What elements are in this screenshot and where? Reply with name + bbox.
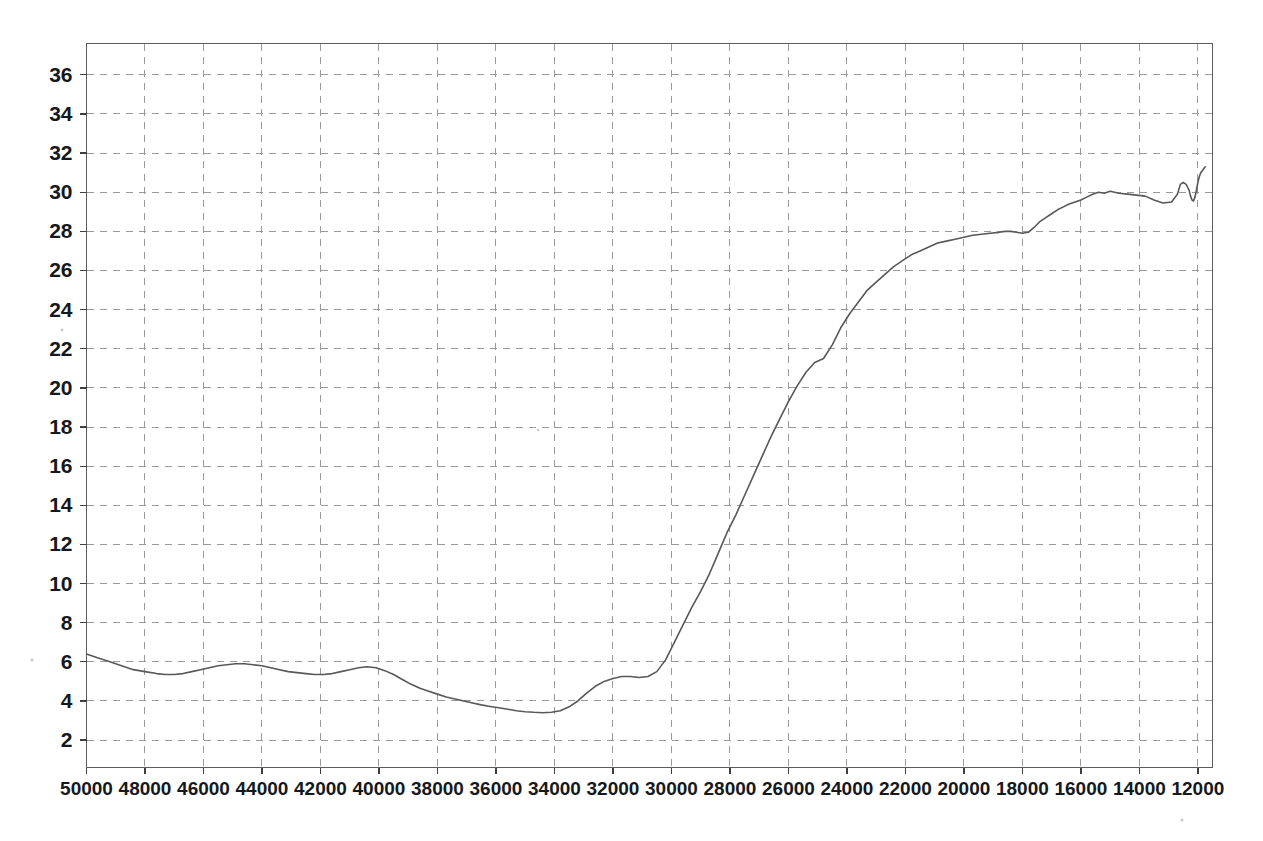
x-axis-ticks: 5000048000460004400042000400003800036000…: [60, 768, 1224, 799]
x-tick-label: 46000: [177, 778, 230, 799]
x-tick-label: 24000: [820, 778, 873, 799]
scan-speck: [537, 429, 539, 431]
line-chart: 24681012141618202224262830323436 5000048…: [0, 0, 1263, 841]
y-tick-label: 6: [61, 650, 73, 673]
data-series-layer: [87, 167, 1206, 713]
chart-container: 24681012141618202224262830323436 5000048…: [0, 0, 1263, 841]
y-tick-label: 14: [49, 493, 73, 516]
x-tick-label: 48000: [119, 778, 172, 799]
x-tick-label: 12000: [1171, 778, 1224, 799]
x-tick-label: 16000: [1054, 778, 1107, 799]
x-tick-label: 34000: [528, 778, 581, 799]
spectrum-curve: [87, 167, 1206, 713]
y-tick-label: 22: [49, 337, 72, 360]
plot-frame: [87, 44, 1213, 768]
y-tick-label: 24: [49, 298, 73, 321]
gridlines: [87, 44, 1213, 768]
y-tick-label: 34: [49, 102, 73, 125]
scan-speck: [1181, 819, 1184, 822]
y-tick-label: 4: [61, 689, 73, 712]
y-tick-label: 20: [49, 376, 72, 399]
x-tick-label: 14000: [1113, 778, 1166, 799]
y-tick-label: 16: [49, 454, 72, 477]
y-tick-label: 10: [49, 572, 72, 595]
x-tick-label: 44000: [236, 778, 289, 799]
y-tick-label: 36: [49, 63, 72, 86]
y-tick-label: 12: [49, 532, 72, 555]
plot-border: [87, 44, 1213, 768]
x-tick-label: 26000: [762, 778, 815, 799]
y-tick-label: 18: [49, 415, 73, 438]
x-tick-label: 28000: [704, 778, 757, 799]
x-tick-label: 20000: [937, 778, 990, 799]
y-tick-label: 30: [49, 180, 72, 203]
x-tick-label: 38000: [411, 778, 464, 799]
x-tick-label: 36000: [470, 778, 523, 799]
x-tick-label: 40000: [353, 778, 406, 799]
scan-speck: [30, 658, 33, 661]
scan-speck: [61, 329, 64, 332]
x-tick-label: 50000: [60, 778, 113, 799]
y-axis-ticks: 24681012141618202224262830323436: [49, 63, 86, 751]
x-tick-label: 30000: [645, 778, 698, 799]
y-tick-label: 2: [61, 728, 73, 751]
y-tick-label: 8: [61, 611, 73, 634]
y-tick-label: 26: [49, 258, 72, 281]
x-tick-label: 42000: [294, 778, 347, 799]
x-tick-label: 22000: [879, 778, 932, 799]
y-tick-label: 28: [49, 219, 73, 242]
y-tick-label: 32: [49, 141, 72, 164]
x-tick-label: 32000: [587, 778, 640, 799]
x-tick-label: 18000: [996, 778, 1049, 799]
